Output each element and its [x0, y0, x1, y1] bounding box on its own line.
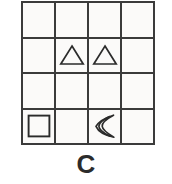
cell-content-r4c2 — [56, 110, 87, 144]
cell-content-r4c3 — [89, 110, 120, 144]
grid-cell-r4c1 — [22, 109, 55, 145]
grid-cell-r1c1 — [22, 2, 55, 38]
grid-cell-r3c4 — [121, 73, 154, 109]
shape-grid — [21, 1, 155, 145]
grid-cell-r2c3 — [88, 38, 121, 74]
figure-label: C — [0, 150, 172, 178]
cell-content-r1c2 — [56, 3, 87, 37]
crescent-moon-icon — [92, 113, 118, 139]
grid-row — [22, 2, 154, 38]
grid-cell-r2c1 — [22, 38, 55, 74]
triangle-icon — [59, 44, 85, 66]
grid-cell-r1c2 — [55, 2, 88, 38]
grid-cell-r2c4 — [121, 38, 154, 74]
grid-row — [22, 38, 154, 74]
triangle-icon — [92, 44, 118, 66]
grid-cell-r3c2 — [55, 73, 88, 109]
cell-content-r2c4 — [122, 39, 153, 73]
grid-cell-r1c3 — [88, 2, 121, 38]
cell-content-r3c2 — [56, 74, 87, 108]
answer-option-figure: C — [0, 0, 172, 184]
cell-content-r3c4 — [122, 74, 153, 108]
grid-row — [22, 73, 154, 109]
grid-cell-r3c1 — [22, 73, 55, 109]
cell-content-r2c3 — [89, 39, 120, 73]
cell-content-r1c3 — [89, 3, 120, 37]
cell-content-r4c4 — [122, 110, 153, 144]
grid-table — [21, 1, 155, 145]
cell-content-r2c1 — [23, 39, 54, 73]
cell-content-r3c3 — [89, 74, 120, 108]
square-icon — [27, 114, 51, 138]
cell-content-r1c1 — [23, 3, 54, 37]
grid-cell-r4c4 — [121, 109, 154, 145]
grid-cell-r3c3 — [88, 73, 121, 109]
cell-content-r3c1 — [23, 74, 54, 108]
grid-cell-r4c3 — [88, 109, 121, 145]
cell-content-r1c4 — [122, 3, 153, 37]
cell-content-r4c1 — [23, 110, 54, 144]
cell-content-r2c2 — [56, 39, 87, 73]
grid-cell-r1c4 — [121, 2, 154, 38]
grid-row — [22, 109, 154, 145]
grid-cell-r4c2 — [55, 109, 88, 145]
grid-cell-r2c2 — [55, 38, 88, 74]
